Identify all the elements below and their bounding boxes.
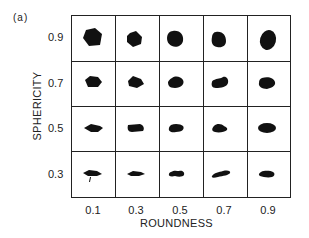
particle-s03-r03: [127, 171, 145, 176]
y-tick-0.3: 0.3: [48, 168, 68, 180]
particle-s09-r01: [83, 28, 102, 46]
particle-s03-r01: [83, 170, 102, 176]
particle-s05-r03: [128, 124, 144, 132]
x-axis-title: ROUNDNESS: [140, 217, 213, 229]
particle-s07-r07: [212, 77, 229, 88]
x-tick-0.1: 0.1: [78, 204, 108, 216]
panel-label: (a): [13, 12, 28, 23]
particle-s09-r07: [212, 32, 226, 47]
particle-s03-r01-tail: [89, 177, 91, 182]
x-tick-0.3: 0.3: [121, 204, 151, 216]
y-axis-title: SPHERICITY: [31, 61, 43, 151]
x-tick-0.7: 0.7: [209, 204, 239, 216]
x-tick-0.9: 0.9: [253, 204, 283, 216]
y-tick-0.7: 0.7: [48, 77, 68, 89]
particle-s05-r05: [169, 124, 184, 132]
particle-shapes: [71, 15, 291, 198]
particle-s07-r09: [259, 77, 275, 89]
particle-s03-r05: [169, 171, 184, 177]
particle-s09-r03: [127, 31, 142, 47]
particle-s03-r09: [259, 171, 274, 178]
particle-s03-r07: [212, 171, 230, 178]
x-tick-0.5: 0.5: [165, 204, 195, 216]
particle-s07-r05: [168, 77, 184, 88]
particle-s09-r09: [258, 28, 279, 51]
particle-s05-r01: [84, 124, 103, 132]
y-tick-0.9: 0.9: [48, 31, 68, 43]
particle-s05-r07: [212, 124, 227, 132]
particle-s09-r05: [167, 31, 183, 47]
y-tick-0.5: 0.5: [48, 122, 68, 134]
particle-s07-r03: [128, 76, 144, 88]
particle-s07-r01: [85, 76, 102, 87]
particle-s05-r09: [258, 123, 276, 133]
